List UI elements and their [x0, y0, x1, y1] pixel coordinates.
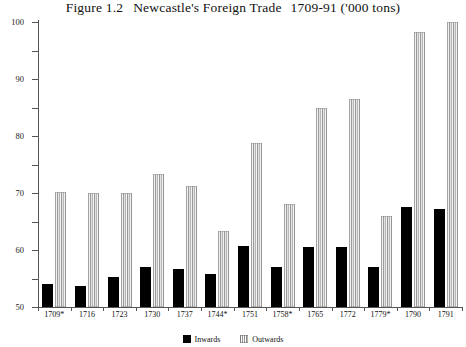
bar-outwards-1744star — [218, 231, 229, 307]
x-axis-tick-label: 1716 — [79, 310, 95, 319]
x-axis-tick — [266, 307, 267, 311]
y-axis-tick-label: 70 — [16, 188, 25, 198]
bar-inwards-1751 — [238, 246, 249, 307]
chart-figure: Figure 1.2Newcastle's Foreign Trade1709-… — [0, 0, 466, 347]
bar-outwards-1723 — [121, 193, 132, 307]
bar-inwards-1737 — [173, 269, 184, 307]
bar-group — [201, 22, 234, 307]
bar-outwards-1765 — [316, 108, 327, 308]
x-axis-tick-label: 1730 — [144, 310, 160, 319]
legend-label-outwards: Outwards — [252, 335, 283, 344]
bar-group — [136, 22, 169, 307]
x-axis-tick — [397, 307, 398, 311]
x-axis-tick — [429, 307, 430, 311]
bar-outwards-1730 — [153, 174, 164, 307]
x-axis-tick — [364, 307, 365, 311]
x-axis-tick — [462, 307, 463, 311]
y-axis-tick-label: 90 — [16, 74, 25, 84]
bar-outwards-1779star — [381, 216, 392, 307]
bar-inwards-1709star — [42, 284, 53, 307]
x-axis-tick-label: 1709* — [44, 310, 64, 319]
x-axis-tick — [136, 307, 137, 311]
x-axis-tick-label: 1765 — [307, 310, 323, 319]
bar-inwards-1790 — [401, 207, 412, 307]
legend-label-inwards: Inwards — [195, 335, 221, 344]
bar-group — [71, 22, 104, 307]
bar-group — [103, 22, 136, 307]
legend-item-inwards: Inwards — [183, 335, 221, 344]
plot-area: 0102030405060708090100 — [38, 22, 462, 307]
bar-group — [168, 22, 201, 307]
bar-inwards-1779star — [368, 267, 379, 307]
bar-inwards-1765 — [303, 247, 314, 307]
figure-title-text: Newcastle's Foreign Trade — [133, 0, 281, 15]
x-axis-tick-label: 1744* — [207, 310, 227, 319]
legend-swatch-outwards-icon — [240, 335, 248, 343]
bar-outwards-1790 — [414, 32, 425, 307]
x-axis-tick — [71, 307, 72, 311]
bar-outwards-1758star — [284, 204, 295, 307]
x-axis-tick — [299, 307, 300, 311]
x-axis-tick-label: 1751 — [242, 310, 258, 319]
bar-group — [397, 22, 430, 307]
y-axis-tick-label: 50 — [16, 302, 25, 312]
x-axis-tick — [332, 307, 333, 311]
x-axis-tick-label: 1723 — [112, 310, 128, 319]
x-axis-tick-label: 1779* — [370, 310, 390, 319]
x-axis-tick-label: 1790 — [405, 310, 421, 319]
x-axis-line — [36, 307, 462, 308]
bar-inwards-1772 — [336, 247, 347, 307]
legend-swatch-inwards-icon — [183, 335, 191, 343]
bar-inwards-1744star — [205, 274, 216, 307]
x-axis-tick-label: 1758* — [273, 310, 293, 319]
bar-group — [266, 22, 299, 307]
legend-item-outwards: Outwards — [240, 335, 283, 344]
bar-group — [364, 22, 397, 307]
figure-title-years: 1709-91 ('000 tons) — [291, 0, 401, 15]
bar-outwards-1709star — [55, 192, 66, 307]
bar-group — [332, 22, 365, 307]
x-axis-tick-label: 1772 — [340, 310, 356, 319]
y-axis-tick-label: 60 — [16, 245, 25, 255]
bar-outwards-1751 — [251, 143, 262, 307]
x-axis-tick — [38, 307, 39, 311]
bar-outwards-1772 — [349, 99, 360, 307]
bar-group — [234, 22, 267, 307]
bar-inwards-1730 — [140, 267, 151, 307]
y-axis-tick-label: 80 — [16, 131, 25, 141]
bar-outwards-1791 — [447, 22, 458, 307]
figure-number: Figure 1.2 — [66, 0, 124, 15]
x-axis-tick — [168, 307, 169, 311]
x-axis-tick — [234, 307, 235, 311]
bar-group — [299, 22, 332, 307]
chart-title: Figure 1.2Newcastle's Foreign Trade1709-… — [0, 0, 466, 18]
x-axis-tick — [103, 307, 104, 311]
x-axis-tick-label: 1737 — [177, 310, 193, 319]
y-axis-tick-label: 100 — [11, 17, 24, 27]
bar-inwards-1791 — [434, 209, 445, 307]
bar-outwards-1737 — [186, 186, 197, 307]
bar-group — [429, 22, 462, 307]
chart-legend: Inwards Outwards — [0, 333, 466, 345]
x-axis-tick — [201, 307, 202, 311]
bar-inwards-1723 — [108, 277, 119, 307]
bar-outwards-1716 — [88, 193, 99, 307]
bar-inwards-1758star — [271, 267, 282, 307]
x-axis-tick-label: 1791 — [438, 310, 454, 319]
bar-inwards-1716 — [75, 286, 86, 307]
bar-group — [38, 22, 71, 307]
